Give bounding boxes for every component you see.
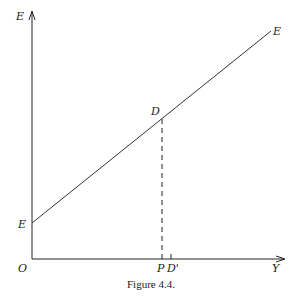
figure-caption: Figure 4.4.: [127, 278, 175, 290]
figure-diagram: E E O E D P D' Y Figure 4.4.: [0, 0, 302, 303]
point-d-prime-label: D': [166, 262, 179, 275]
y-axis-label: E: [15, 10, 24, 23]
point-d-label: D: [150, 105, 160, 118]
x-axis-label: Y: [272, 262, 281, 275]
point-p-label: P: [156, 262, 165, 275]
ee-line: [32, 31, 271, 223]
line-end-label: E: [272, 25, 281, 38]
intercept-label: E: [17, 218, 26, 231]
origin-label: O: [18, 262, 27, 275]
